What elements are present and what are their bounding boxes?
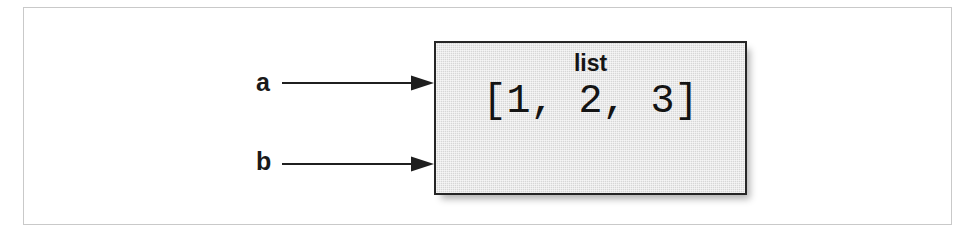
pointer-label-a: a (256, 70, 270, 95)
arrow-right-icon-b (282, 156, 434, 172)
object-value: [1, 2, 3] (482, 81, 698, 123)
pointer-label-b: b (256, 149, 271, 174)
arrow-right-icon-a (282, 75, 434, 91)
object-type-label: list (574, 51, 607, 75)
figure-frame: a b list [1, 2, 3] (23, 7, 952, 225)
figure-root: a b list [1, 2, 3] (0, 0, 974, 233)
list-object-box: list [1, 2, 3] (434, 41, 747, 195)
